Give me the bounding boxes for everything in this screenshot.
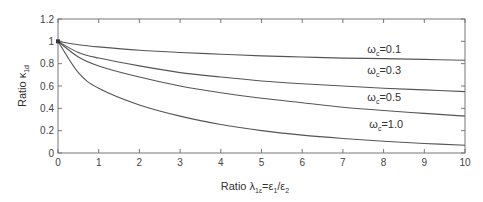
origin-marker xyxy=(56,39,60,43)
x-tick-label: 8 xyxy=(381,157,387,168)
x-tick-label: 0 xyxy=(55,157,61,168)
curve-label: ωc=1.0 xyxy=(369,118,403,132)
curve-ωc=1.0 xyxy=(58,41,465,145)
x-tick-label: 4 xyxy=(218,157,224,168)
x-tick-label: 2 xyxy=(137,157,143,168)
x-tick-label: 9 xyxy=(422,157,428,168)
curve-label: ωc=0.5 xyxy=(367,91,401,105)
y-tick-label: 0.6 xyxy=(40,81,54,92)
y-tick-label: 0.4 xyxy=(40,103,54,114)
x-tick-label: 10 xyxy=(459,157,471,168)
x-tick-label: 6 xyxy=(299,157,305,168)
curve-ωc=0.1 xyxy=(58,41,465,60)
x-tick-label: 3 xyxy=(177,157,183,168)
curve-label: ωc=0.3 xyxy=(367,64,401,78)
plot-border xyxy=(58,19,465,153)
y-tick-label: 0.2 xyxy=(40,125,54,136)
y-tick-label: 0 xyxy=(48,148,54,159)
x-axis-label: Ratio λ1ε=ε1/ε2 xyxy=(221,180,289,194)
y-tick-label: 0.8 xyxy=(40,58,54,69)
curves xyxy=(56,39,465,145)
y-tick-label: 1.2 xyxy=(40,14,54,25)
y-axis-label: Ratio κ1d xyxy=(16,65,30,107)
curve-label: ωc=0.1 xyxy=(367,43,401,57)
x-tick-label: 7 xyxy=(340,157,346,168)
plot-frame xyxy=(58,19,465,153)
curve-ωc=0.5 xyxy=(58,41,465,116)
x-tick-label: 1 xyxy=(96,157,102,168)
y-tick-label: 1 xyxy=(48,36,54,47)
line-chart: 01234567891000.20.40.60.811.2 ωc=0.1ωc=0… xyxy=(0,0,483,202)
x-tick-label: 5 xyxy=(259,157,265,168)
